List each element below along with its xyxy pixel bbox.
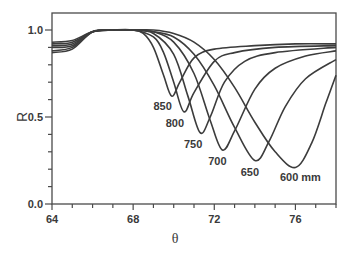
curve-label-800: 800 (166, 117, 184, 129)
curve-label-600: 600 mm (280, 171, 321, 183)
x-axis-label: θ (172, 231, 179, 246)
curve-labels: 850800750700650600 mm (154, 100, 322, 183)
curve-850 (52, 30, 336, 97)
x-tick-label: 64 (46, 213, 59, 225)
reflectance-chart: 64687276 0.00.51.0 850800750700650600 mm… (0, 0, 348, 254)
curve-700 (52, 30, 336, 150)
x-tick-label: 68 (127, 213, 139, 225)
curve-label-650: 650 (241, 166, 259, 178)
curve-label-750: 750 (184, 138, 202, 150)
x-tick-label: 76 (289, 213, 301, 225)
x-axis-ticks: 64687276 (46, 204, 336, 225)
y-tick-label: 1.0 (28, 24, 43, 36)
curve-750 (52, 30, 336, 134)
y-tick-label: 0.0 (28, 198, 43, 210)
x-tick-label: 72 (208, 213, 220, 225)
curve-label-700: 700 (208, 155, 226, 167)
y-axis-ticks: 0.00.51.0 (28, 24, 52, 210)
curve-label-850: 850 (154, 100, 172, 112)
y-axis-label: R (14, 112, 30, 122)
